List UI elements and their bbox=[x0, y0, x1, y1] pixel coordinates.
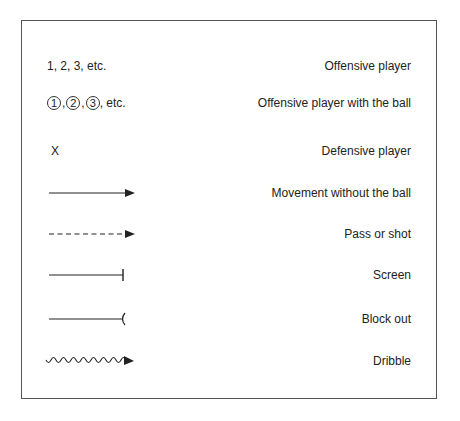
legend-row-movement: Movement without the ball bbox=[22, 181, 436, 205]
legend-label: Offensive player bbox=[325, 54, 412, 78]
line-with-bar-icon bbox=[47, 263, 137, 287]
legend-row-offensive-player-with-ball: 1,2,3, etc. Offensive player with the ba… bbox=[22, 91, 436, 115]
circled-number-1: 1 bbox=[47, 96, 61, 110]
circled-numbers-symbol: 1,2,3, etc. bbox=[47, 91, 126, 115]
legend-label: Offensive player with the ball bbox=[258, 91, 411, 115]
legend-label: Pass or shot bbox=[344, 222, 411, 246]
numbers-symbol: 1, 2, 3, etc. bbox=[47, 54, 106, 78]
etc-suffix: , etc. bbox=[100, 96, 126, 110]
legend-row-dribble: Dribble bbox=[22, 349, 436, 373]
circled-number-2: 2 bbox=[66, 96, 80, 110]
legend-label: Movement without the ball bbox=[272, 181, 411, 205]
legend-row-screen: Screen bbox=[22, 263, 436, 287]
legend-label: Screen bbox=[373, 263, 411, 287]
legend-row-block-out: Block out bbox=[22, 307, 436, 331]
circled-number-3: 3 bbox=[86, 96, 100, 110]
legend-row-defensive-player: X Defensive player bbox=[22, 139, 436, 163]
solid-arrow-icon bbox=[47, 181, 137, 205]
legend-row-offensive-player: 1, 2, 3, etc. Offensive player bbox=[22, 54, 436, 78]
x-mark-icon: X bbox=[51, 139, 59, 163]
legend-label: Dribble bbox=[373, 349, 411, 373]
legend-label: Defensive player bbox=[322, 139, 411, 163]
legend-frame: 1, 2, 3, etc. Offensive player 1,2,3, et… bbox=[21, 20, 437, 399]
dashed-arrow-icon bbox=[47, 222, 137, 246]
legend-row-pass-or-shot: Pass or shot bbox=[22, 222, 436, 246]
legend-label: Block out bbox=[362, 307, 411, 331]
line-with-arc-icon bbox=[47, 307, 137, 331]
wavy-arrow-icon bbox=[44, 349, 139, 373]
